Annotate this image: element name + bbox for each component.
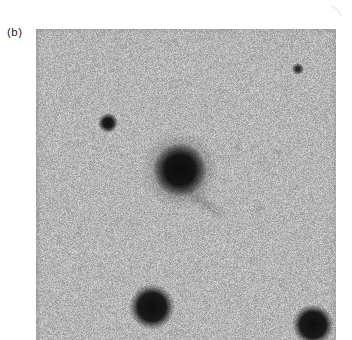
- photo-frame: [36, 29, 336, 340]
- panel-label: (b): [7, 26, 23, 38]
- astronomical-image: [36, 29, 336, 340]
- scratch-line: [331, 6, 341, 16]
- figure-page: (b): [0, 0, 352, 340]
- margin-scratch-artifact: [326, 2, 350, 22]
